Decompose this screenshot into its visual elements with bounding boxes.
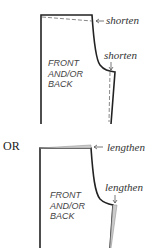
piece-label-line: FRONT [48,58,83,69]
piece-label-line: BACK [48,79,83,90]
or-separator: OR [3,139,20,154]
piece-label-line: BACK [50,211,85,222]
crotch-lengthen-label: lengthen [105,182,143,193]
top-piece-label: FRONT AND/OR BACK [48,58,83,90]
crotch-shorten-label: shorten [104,50,137,61]
top-lengthen-area [40,145,91,148]
top-shorten-line [42,17,92,21]
bottom-piece-label: FRONT AND/OR BACK [50,190,85,222]
crotch-shorten-line [109,72,110,122]
piece-label-line: AND/OR [50,201,85,212]
top-lengthen-label: lengthen [107,142,145,153]
top-shorten-label: shorten [106,15,139,26]
piece-label-line: AND/OR [48,69,83,80]
piece-label-line: FRONT [50,190,85,201]
